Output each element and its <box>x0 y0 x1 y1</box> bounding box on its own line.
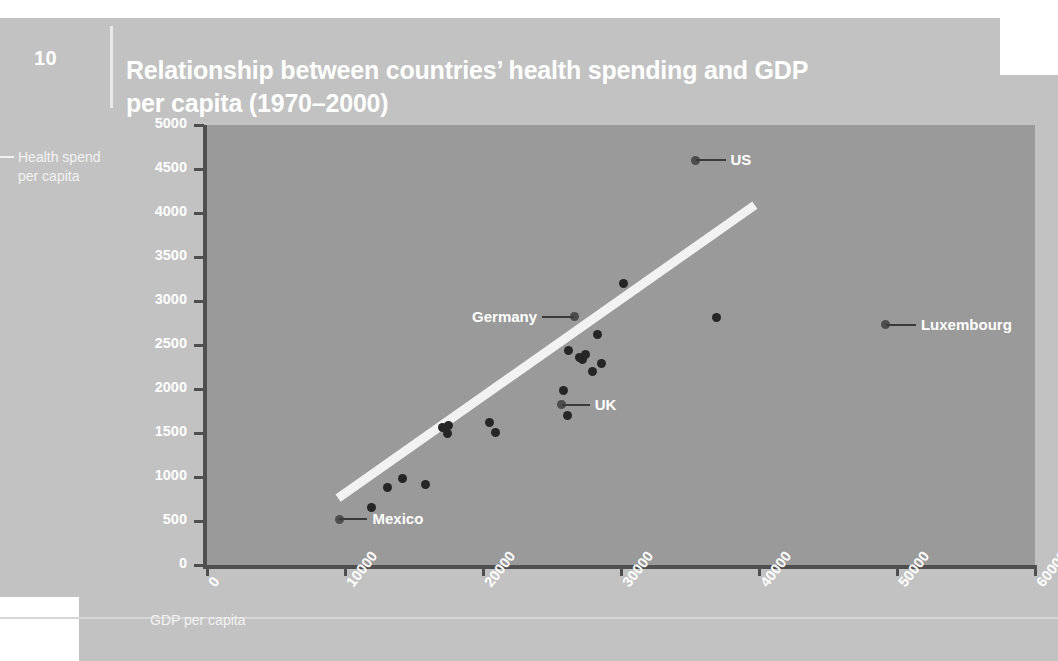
data-point[interactable] <box>593 330 602 339</box>
y-axis-tick-labels: 0500100015002000250030003500400045005000 <box>127 125 187 565</box>
y-tick-mark <box>194 388 204 391</box>
y-axis-caption-leader-line <box>0 156 14 158</box>
page-corner-notch <box>0 597 79 661</box>
y-tick-label: 4000 <box>155 203 187 219</box>
y-tick-label: 3000 <box>155 291 187 307</box>
y-tick-mark <box>194 256 204 259</box>
y-tick-label: 3500 <box>155 247 187 263</box>
annotation-label-luxembourg: Luxembourg <box>921 316 1012 333</box>
y-tick-mark <box>194 124 204 127</box>
data-point[interactable] <box>443 429 452 438</box>
y-tick-mark <box>194 432 204 435</box>
y-tick-mark <box>194 476 204 479</box>
page-title: Relationship between countries’ health s… <box>126 54 826 121</box>
annotation-leader-line <box>339 518 367 520</box>
y-tick-mark <box>194 300 204 303</box>
data-point[interactable] <box>559 386 568 395</box>
y-tick-mark <box>194 344 204 347</box>
annotation-label-germany: Germany <box>472 308 537 325</box>
y-tick-mark <box>194 168 204 171</box>
data-point[interactable] <box>564 346 573 355</box>
annotation-leader-line <box>542 316 574 318</box>
data-point[interactable] <box>712 313 721 322</box>
annotation-label-mexico: Mexico <box>372 510 423 527</box>
data-point[interactable] <box>421 480 430 489</box>
annotation-label-us: US <box>731 151 752 168</box>
y-tick-label: 500 <box>163 511 187 527</box>
y-tick-label: 4500 <box>155 159 187 175</box>
annotation-leader-line <box>696 159 726 161</box>
y-tick-label: 1000 <box>155 467 187 483</box>
data-point[interactable] <box>444 421 453 430</box>
scatter-chart: 0500100015002000250030003500400045005000… <box>207 125 1035 565</box>
data-point[interactable] <box>581 350 590 359</box>
y-tick-mark <box>194 564 204 567</box>
y-tick-label: 5000 <box>155 115 187 131</box>
data-point[interactable] <box>588 367 597 376</box>
y-tick-label: 2500 <box>155 335 187 351</box>
data-point[interactable] <box>563 411 572 420</box>
figure-number: 10 <box>34 47 57 70</box>
y-tick-mark <box>194 520 204 523</box>
annotation-leader-line <box>562 404 590 406</box>
annotation-leader-line <box>886 324 916 326</box>
data-point[interactable] <box>491 428 500 437</box>
annotation-label-uk: UK <box>595 396 617 413</box>
y-tick-label: 2000 <box>155 379 187 395</box>
y-tick-label: 0 <box>179 555 187 571</box>
x-axis-caption: GDP per capita <box>150 612 245 628</box>
trend-line <box>207 125 1035 565</box>
header-divider <box>110 26 113 108</box>
y-tick-mark <box>194 212 204 215</box>
y-tick-label: 1500 <box>155 423 187 439</box>
